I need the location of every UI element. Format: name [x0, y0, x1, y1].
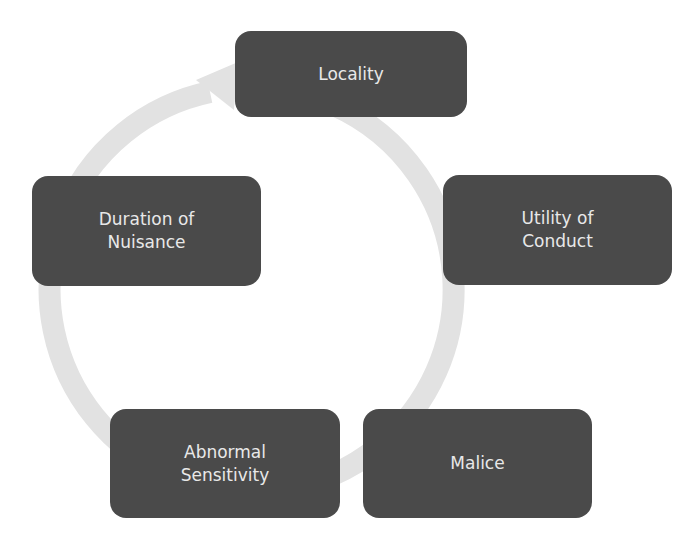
node-label: Abnormal Sensitivity	[155, 441, 295, 487]
node-label: Locality	[318, 63, 384, 86]
node-label: Utility of Conduct	[488, 207, 628, 253]
node-duration-of-nuisance: Duration of Nuisance	[32, 176, 261, 286]
node-label: Duration of Nuisance	[77, 208, 217, 254]
node-malice: Malice	[363, 409, 592, 518]
node-utility-of-conduct: Utility of Conduct	[443, 175, 672, 285]
node-abnormal-sensitivity: Abnormal Sensitivity	[110, 409, 340, 518]
node-label: Malice	[450, 452, 504, 475]
node-locality: Locality	[235, 31, 467, 117]
